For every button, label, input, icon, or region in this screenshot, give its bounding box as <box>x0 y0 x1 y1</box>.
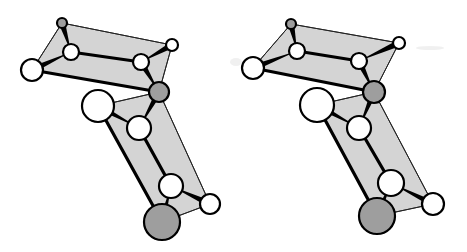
atom-gray <box>363 81 385 103</box>
atom-white <box>82 90 114 122</box>
atom-white <box>200 194 220 214</box>
right-stereo-view <box>242 19 444 234</box>
atom-white <box>300 88 334 122</box>
left-stereo-view <box>21 18 220 240</box>
atom-white <box>378 170 404 196</box>
atom-white <box>127 116 151 140</box>
atom-white <box>351 53 367 69</box>
atom-white <box>393 37 405 49</box>
atom-white <box>422 193 444 215</box>
atom-white <box>289 43 305 59</box>
stereo-diagram <box>0 0 467 252</box>
atom-white <box>242 57 264 79</box>
atom-gray <box>286 19 296 29</box>
atom-white <box>133 54 149 70</box>
atom-white <box>166 39 178 51</box>
atom-gray <box>359 198 395 234</box>
atom-gray <box>57 18 67 28</box>
atom-gray <box>149 82 169 102</box>
atom-white <box>63 44 79 60</box>
atom-white <box>21 59 43 81</box>
atom-white <box>159 174 183 198</box>
atom-gray <box>144 204 180 240</box>
atom-white <box>347 116 371 140</box>
